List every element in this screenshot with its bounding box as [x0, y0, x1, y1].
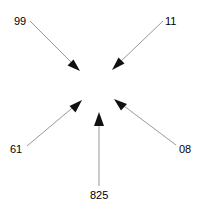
node-label-99: 99 [14, 16, 26, 27]
arrow-shaft-11 [117, 21, 163, 65]
arrow-shaft-99 [30, 21, 77, 68]
arrow-node-08 [114, 99, 176, 145]
arrow-layer [0, 0, 202, 212]
arrow-shaft-08 [120, 103, 176, 145]
arrowhead-61 [70, 100, 83, 113]
node-label-61: 61 [10, 144, 22, 155]
arrow-shaft-61 [27, 104, 77, 146]
arrowhead-99 [68, 60, 81, 72]
node-label-08: 08 [179, 144, 191, 155]
arrowhead-08 [114, 99, 127, 111]
diagram-canvas: 99 11 61 08 825 [0, 0, 202, 212]
arrow-node-825 [94, 112, 104, 186]
arrow-node-11 [112, 21, 163, 70]
arrow-node-99 [30, 21, 80, 71]
arrowhead-825 [94, 112, 104, 126]
node-label-11: 11 [165, 16, 176, 27]
arrow-node-61 [27, 100, 82, 146]
node-label-825: 825 [90, 190, 108, 201]
